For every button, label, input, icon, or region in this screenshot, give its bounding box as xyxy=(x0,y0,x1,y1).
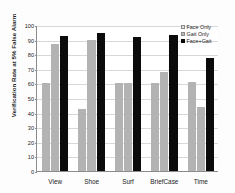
bar-gait-only xyxy=(124,83,132,171)
plot-area: 0102030405060708090100 ViewShoeSurfBrief… xyxy=(36,26,218,172)
bar-chart: Verification Rate at 5% False Alarm 0102… xyxy=(0,0,235,193)
y-axis-title: Verification Rate at 5% False Alarm xyxy=(10,1,17,131)
bar-group xyxy=(78,26,105,171)
x-tick-label: Surf xyxy=(122,178,134,185)
x-tick-label: BriefCase xyxy=(150,178,178,185)
legend-label: Face+Gait xyxy=(187,38,212,44)
y-tick-label: 30 xyxy=(28,125,34,131)
bar-gait-only xyxy=(160,72,168,171)
y-tick-label: 100 xyxy=(25,23,34,29)
y-tick-label: 80 xyxy=(28,52,34,58)
legend-entry: Face Only xyxy=(181,24,233,31)
legend-swatch-icon xyxy=(181,32,185,36)
y-tick-mark xyxy=(35,114,37,115)
y-tick-mark xyxy=(35,157,37,158)
bar-face-only xyxy=(78,109,86,171)
bar-gait-only xyxy=(197,107,205,171)
y-tick-label: 60 xyxy=(28,81,34,87)
y-tick-mark xyxy=(35,128,37,129)
bar-face-gait xyxy=(133,37,141,171)
y-tick-mark xyxy=(35,26,37,27)
legend-entry: Gait Only xyxy=(181,31,233,38)
bar-face-only xyxy=(151,83,159,171)
bar-group xyxy=(115,26,142,171)
legend-entry: Face+Gait xyxy=(181,38,233,45)
legend-swatch-icon xyxy=(181,25,185,29)
y-tick-label: 40 xyxy=(28,111,34,117)
bar-face-gait xyxy=(60,36,68,171)
bar-group xyxy=(151,26,178,171)
bar-gait-only xyxy=(51,44,59,171)
bar-face-gait xyxy=(97,33,105,171)
y-tick-label: 70 xyxy=(28,67,34,73)
y-tick-mark xyxy=(35,41,37,42)
bar-face-gait xyxy=(169,35,177,172)
y-tick-label: 90 xyxy=(28,38,34,44)
legend-label: Gait Only xyxy=(187,31,209,37)
x-tick-label: View xyxy=(48,178,62,185)
bar-group xyxy=(188,26,215,171)
y-tick-mark xyxy=(35,99,37,100)
y-tick-label: 20 xyxy=(28,140,34,146)
y-tick-label: 10 xyxy=(28,154,34,160)
bar-face-gait xyxy=(206,58,214,171)
bar-face-only xyxy=(42,83,50,171)
bar-face-only xyxy=(188,82,196,171)
y-tick-label: 50 xyxy=(28,96,34,102)
x-tick-label: Shoe xyxy=(84,178,99,185)
y-tick-mark xyxy=(35,143,37,144)
legend-swatch-icon xyxy=(181,39,185,43)
x-tick-label: Time xyxy=(194,178,208,185)
y-tick-mark xyxy=(35,70,37,71)
y-tick-label: 0 xyxy=(31,169,34,175)
y-tick-mark xyxy=(35,84,37,85)
bar-gait-only xyxy=(87,40,95,171)
y-tick-mark xyxy=(35,55,37,56)
legend-label: Face Only xyxy=(187,24,212,30)
chart-legend: Face OnlyGait OnlyFace+Gait xyxy=(181,24,233,45)
y-tick-mark xyxy=(35,172,37,173)
bar-face-only xyxy=(115,83,123,171)
bar-group xyxy=(42,26,69,171)
